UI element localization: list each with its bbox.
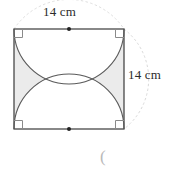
figure-canvas — [0, 0, 175, 174]
dimension-label-right: 14 cm — [128, 67, 161, 83]
dimension-label-top: 14 cm — [43, 4, 76, 20]
midpoint-dot-top — [67, 27, 71, 31]
midpoint-dot-bottom — [67, 127, 71, 131]
shaded-region — [14, 29, 124, 129]
geometry-figure: 14 cm 14 cm ( — [0, 0, 175, 174]
stray-parenthesis-text: ( — [100, 147, 106, 167]
